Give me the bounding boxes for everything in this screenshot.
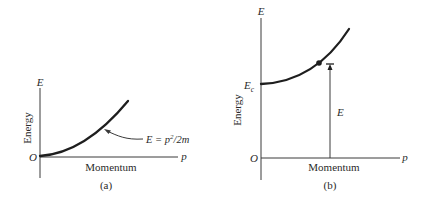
panel-a-arrowhead-icon	[104, 129, 111, 134]
panel-b-energy-label: E	[336, 106, 344, 118]
panel-b-x-title: Momentum	[308, 161, 360, 173]
panel-b-y-title: Energy	[231, 94, 243, 126]
equation-rhs: /2m	[173, 134, 190, 145]
panel-b-arrowhead-icon	[328, 64, 333, 70]
panel-b-x-symbol: p	[401, 151, 408, 163]
panel-a-x-symbol: p	[180, 150, 187, 162]
panel-a-x-title: Momentum	[85, 161, 137, 173]
panel-a-origin-label: O	[29, 151, 37, 163]
panel-b-parabola-curve	[261, 29, 349, 84]
intercept-subscript: c	[251, 85, 255, 94]
panel-a-equation: E = p2/2m	[145, 133, 190, 145]
panel-b-y-symbol: E	[257, 5, 265, 17]
panel-b-point-marker	[316, 60, 322, 66]
figure: E p O Energy Momentum (a) E = p2/2m E p …	[0, 0, 424, 207]
panel-a-caption: (a)	[100, 179, 113, 192]
equation-lhs: E = p	[145, 134, 170, 145]
panel-b-caption: (b)	[324, 179, 337, 192]
panel-b-intercept-label: Ec	[243, 79, 255, 94]
panel-a-y-title: Energy	[21, 112, 33, 144]
panel-a: E p O Energy Momentum (a) E = p2/2m	[21, 76, 190, 192]
panel-b: E p O Energy Momentum (b) Ec E	[231, 5, 408, 192]
panel-a-parabola-curve	[40, 101, 128, 156]
panel-b-origin-label: O	[250, 152, 258, 164]
panel-a-leader-arrow	[107, 131, 143, 139]
panel-a-y-symbol: E	[36, 76, 44, 88]
